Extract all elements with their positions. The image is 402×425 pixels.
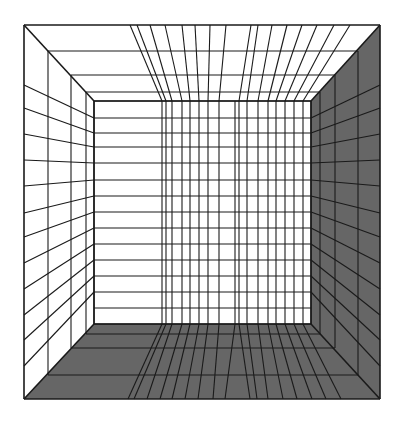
room-svg bbox=[0, 0, 402, 425]
perspective-room-diagram bbox=[0, 0, 402, 425]
